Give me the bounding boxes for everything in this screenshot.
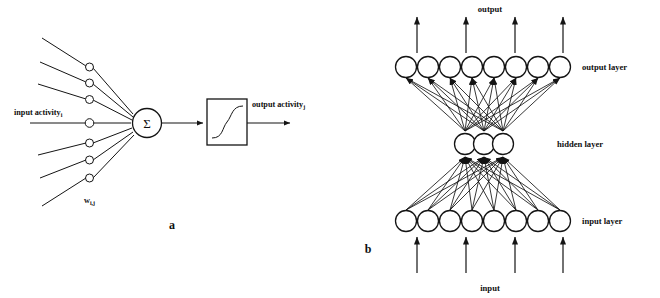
synapse-circle-2 — [86, 79, 94, 87]
soma-line-3 — [93, 100, 132, 120]
output-node — [462, 57, 483, 78]
dendrite-line-3 — [38, 84, 86, 99]
panel-a-label: a — [169, 218, 175, 232]
dendrite-lines — [30, 38, 86, 206]
output-node — [396, 57, 417, 78]
dendrite-line-5 — [38, 143, 86, 155]
synapse-circle-1 — [86, 63, 94, 71]
input-node — [396, 211, 417, 232]
input-node — [462, 211, 483, 232]
input-node — [440, 211, 461, 232]
synapse-circle-7 — [86, 174, 94, 182]
output-node — [506, 57, 527, 78]
input-node — [418, 211, 439, 232]
panel-b: output output layer hidden layer input l… — [365, 4, 628, 293]
input-node — [484, 211, 505, 232]
output-node — [440, 57, 461, 78]
hidden-layer-nodes — [455, 134, 514, 155]
soma-line-7 — [93, 135, 134, 178]
synapse-circle-4 — [85, 119, 94, 128]
output-node — [528, 57, 549, 78]
summation-symbol: Σ — [143, 116, 151, 131]
soma-line-6 — [93, 132, 133, 160]
hidden-to-output-connections — [406, 78, 560, 131]
weight-label: wi,j — [84, 196, 95, 206]
output-activity-label: output activityj — [252, 100, 305, 110]
input-label: input — [480, 283, 500, 293]
neural-network-figure: Σ input activityi wi,j output activityj … — [0, 0, 660, 298]
output-layer-nodes — [396, 57, 571, 78]
input-to-hidden-connections — [406, 157, 560, 210]
hidden-node — [493, 134, 514, 155]
synapse-circles — [85, 63, 94, 182]
input-layer-label: input layer — [582, 216, 623, 226]
output-node — [418, 57, 439, 78]
synapse-circle-6 — [86, 156, 94, 164]
output-arrows — [417, 17, 563, 53]
dendrite-line-1 — [42, 38, 86, 66]
input-activity-label: input activityi — [14, 108, 63, 118]
hidden-node — [455, 134, 476, 155]
dendrite-line-6 — [40, 160, 86, 178]
input-node — [506, 211, 527, 232]
soma-line-2 — [93, 84, 133, 117]
synapse-circle-5 — [86, 139, 94, 147]
synapse-circle-3 — [86, 96, 94, 104]
output-label: output — [478, 4, 502, 14]
synapse-to-soma-lines — [93, 68, 134, 178]
hidden-layer-label: hidden layer — [557, 139, 603, 149]
panel-a: Σ input activityi wi,j output activityj … — [14, 38, 305, 232]
input-arrows — [417, 237, 563, 273]
soma-line-5 — [93, 128, 132, 143]
hidden-node — [474, 134, 495, 155]
panel-b-label: b — [365, 242, 372, 256]
output-layer-label: output layer — [582, 62, 627, 72]
input-node — [550, 211, 571, 232]
output-node — [484, 57, 505, 78]
output-node — [550, 57, 571, 78]
dendrite-line-2 — [40, 62, 86, 82]
soma-line-1 — [93, 68, 133, 114]
dendrite-line-7 — [42, 178, 86, 206]
input-node — [528, 211, 549, 232]
input-layer-nodes — [396, 211, 571, 232]
